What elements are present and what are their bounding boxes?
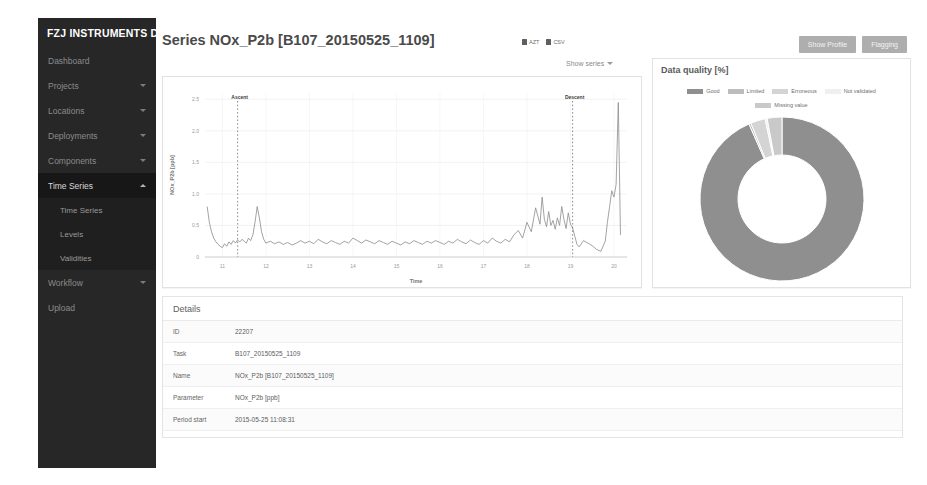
detail-value: 22207: [235, 328, 902, 335]
chevron-down-icon: [607, 62, 613, 65]
legend-label: Limited: [747, 86, 765, 97]
sidebar-item-workflow[interactable]: Workflow: [38, 270, 156, 295]
sidebar-submenu: Time Series Levels Validities: [38, 198, 156, 270]
details-table: ID22207TaskB107_20150525_1109NameNOx_P2b…: [163, 321, 902, 431]
x-axis-tick-label: 17: [481, 263, 487, 269]
legend-item[interactable]: Not validated: [825, 86, 876, 97]
y-axis-tick-label: 1.5: [192, 159, 199, 165]
detail-value: NOx_P2b [B107_20150525_1109]: [235, 372, 902, 379]
y-axis-tick-label: 1.0: [192, 191, 199, 197]
page-header: Series NOx_P2b [B107_20150525_1109] AZT …: [156, 18, 909, 56]
sidebar-item-upload[interactable]: Upload: [38, 295, 156, 320]
timeseries-chart[interactable]: 00.51.01.52.02.511121314151617181920Time…: [163, 77, 641, 287]
legend-item[interactable]: Good: [687, 86, 719, 97]
annotation-label: Descent: [565, 94, 585, 100]
details-card: Details ID22207TaskB107_20150525_1109Nam…: [162, 296, 903, 438]
donut-wrapper: [653, 111, 910, 287]
legend-item[interactable]: Limited: [728, 86, 765, 97]
chevron-down-icon: [140, 281, 146, 284]
download-azt-link[interactable]: AZT: [522, 39, 539, 45]
sidebar-item-time-series[interactable]: Time Series: [38, 173, 156, 198]
sidebar-item-label: Components: [48, 156, 140, 166]
file-download-icon: [522, 39, 527, 45]
data-quality-panel: Data quality [%] GoodLimitedErroneousNot…: [652, 58, 911, 288]
show-series-label: Show series: [566, 60, 604, 67]
sidebar-subitem-validities[interactable]: Validities: [38, 246, 156, 270]
sidebar-item-deployments[interactable]: Deployments: [38, 123, 156, 148]
sidebar-nav: Dashboard Projects Locations Deployments…: [38, 48, 156, 320]
flagging-button[interactable]: Flagging: [862, 36, 907, 53]
sidebar-item-label: Deployments: [48, 131, 140, 141]
download-links: AZT CSV: [522, 39, 565, 45]
legend-label: Good: [706, 86, 719, 97]
legend-item[interactable]: Missing value: [755, 100, 807, 111]
sidebar-subitem-label: Levels: [60, 230, 146, 239]
detail-value: B107_20150525_1109: [235, 350, 902, 357]
detail-key: Parameter: [163, 394, 235, 401]
detail-value: 2015-05-25 11:08:31: [235, 416, 902, 423]
x-axis-label: Time: [410, 278, 423, 284]
panels-row: Show series 00.51.01.52.02.5111213141516…: [156, 58, 909, 288]
chevron-down-icon: [140, 134, 146, 137]
download-azt-label: AZT: [529, 39, 539, 45]
x-axis-tick-label: 20: [611, 263, 617, 269]
legend-swatch: [825, 89, 841, 94]
download-csv-link[interactable]: CSV: [546, 39, 564, 45]
legend-label: Erroneous: [791, 86, 816, 97]
sidebar-item-label: Time Series: [48, 181, 140, 191]
detail-key: Period start: [163, 416, 235, 423]
legend-label: Missing value: [774, 100, 807, 111]
data-quality-donut[interactable]: [692, 113, 872, 285]
chevron-down-icon: [140, 159, 146, 162]
x-axis-tick-label: 15: [394, 263, 400, 269]
x-axis-tick-label: 19: [568, 263, 574, 269]
sidebar-item-dashboard[interactable]: Dashboard: [38, 48, 156, 73]
detail-row: TaskB107_20150525_1109: [163, 343, 902, 365]
x-axis-tick-label: 18: [524, 263, 530, 269]
timeseries-chart-panel: 00.51.01.52.02.511121314151617181920Time…: [162, 76, 642, 288]
sidebar-subitem-time-series[interactable]: Time Series: [38, 198, 156, 222]
detail-key: ID: [163, 328, 235, 335]
x-axis-tick-label: 16: [437, 263, 443, 269]
show-series-dropdown[interactable]: Show series: [566, 60, 613, 67]
show-profile-button[interactable]: Show Profile: [799, 36, 856, 53]
download-csv-label: CSV: [553, 39, 564, 45]
legend-item[interactable]: Erroneous: [772, 86, 816, 97]
legend-swatch: [728, 89, 744, 94]
y-axis-tick-label: 0.5: [192, 222, 199, 228]
page-title: Series NOx_P2b [B107_20150525_1109]: [162, 32, 434, 48]
detail-key: Task: [163, 350, 235, 357]
detail-row: Period start2015-05-25 11:08:31: [163, 409, 902, 431]
y-axis-tick-label: 0: [196, 254, 199, 260]
app-root: FZJ INSTRUMENTS DB Dashboard Projects Lo…: [0, 0, 927, 485]
brand-title: FZJ INSTRUMENTS DB: [38, 18, 156, 48]
detail-row: ParameterNOx_P2b [ppb]: [163, 387, 902, 409]
legend-swatch: [755, 103, 771, 108]
chevron-down-icon: [140, 84, 146, 87]
sidebar-item-projects[interactable]: Projects: [38, 73, 156, 98]
chevron-down-icon: [140, 109, 146, 112]
y-axis-tick-label: 2.0: [192, 128, 199, 134]
sidebar-item-label: Dashboard: [48, 56, 146, 66]
detail-row: ID22207: [163, 321, 902, 343]
data-quality-legend: GoodLimitedErroneousNot validatedMissing…: [653, 75, 910, 111]
x-axis-tick-label: 12: [263, 263, 269, 269]
sidebar-item-label: Projects: [48, 81, 140, 91]
detail-value: NOx_P2b [ppb]: [235, 394, 902, 401]
sidebar-item-label: Locations: [48, 106, 140, 116]
y-axis-label: NOx_P2b [ppb]: [169, 155, 175, 195]
sidebar: FZJ INSTRUMENTS DB Dashboard Projects Lo…: [38, 18, 156, 468]
x-axis-tick-label: 14: [350, 263, 356, 269]
x-axis-tick-label: 11: [220, 263, 225, 269]
series-line: [207, 102, 620, 251]
sidebar-item-locations[interactable]: Locations: [38, 98, 156, 123]
sidebar-item-components[interactable]: Components: [38, 148, 156, 173]
header-actions: Show Profile Flagging: [799, 36, 907, 53]
sidebar-subitem-label: Validities: [60, 254, 146, 263]
sidebar-subitem-levels[interactable]: Levels: [38, 222, 156, 246]
detail-key: Name: [163, 372, 235, 379]
sidebar-subitem-label: Time Series: [60, 206, 146, 215]
y-axis-tick-label: 2.5: [192, 96, 199, 102]
data-quality-title: Data quality [%]: [653, 59, 910, 75]
sidebar-item-label: Upload: [48, 303, 146, 313]
